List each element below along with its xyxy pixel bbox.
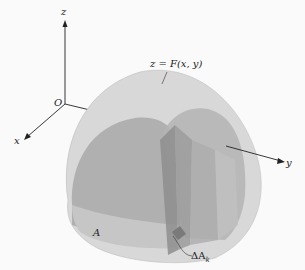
diagram-canvas: z x y O z = F(x, y) A ΔAk: [0, 0, 305, 270]
z-axis: [63, 20, 68, 104]
y-axis-label: y: [286, 157, 292, 168]
element-label-main: ΔA: [191, 250, 205, 261]
surface-figure: [0, 0, 305, 270]
region-label: A: [93, 227, 100, 238]
z-axis-label: z: [61, 6, 66, 17]
origin-label: O: [54, 97, 62, 108]
slab-3: [190, 140, 218, 245]
slab-4: [215, 150, 238, 240]
element-label: ΔAk: [191, 250, 210, 264]
surface-label: z = F(x, y): [150, 58, 202, 69]
element-label-sub: k: [205, 256, 209, 264]
y-axis-hidden-part: [65, 104, 90, 110]
x-axis: [24, 104, 65, 140]
x-axis-label: x: [14, 135, 20, 146]
